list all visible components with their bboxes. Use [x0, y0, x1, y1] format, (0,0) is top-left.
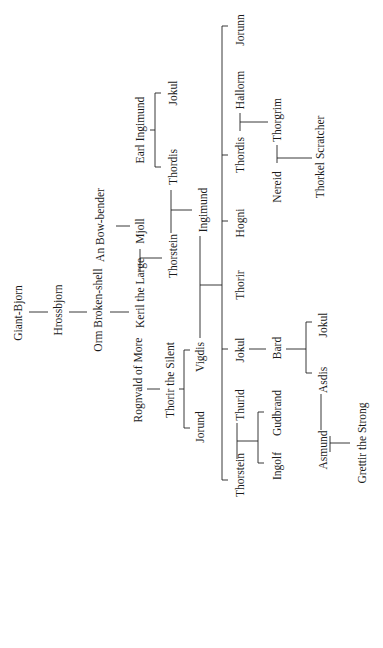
person-thorir-the-silent: Thorir the Silent: [164, 341, 176, 418]
person-vigdis: Vigdis: [194, 341, 207, 372]
person-orm-broken-shell: Orm Broken-shell: [92, 268, 104, 351]
person-jorund: Jorund: [194, 411, 206, 443]
person-jokul: Jokul: [234, 338, 246, 363]
person-gudbrand: Gudbrand: [271, 390, 283, 436]
person-earl-ingimund: Earl Ingimund: [134, 96, 147, 163]
person-asdis: Asdis: [317, 366, 329, 393]
connector-lines: [29, 26, 350, 480]
person-bard: Bard: [271, 337, 283, 360]
person-giant-bjorn: Giant-Bjorn: [12, 285, 25, 341]
person-nereid: Nereid: [271, 171, 283, 203]
person-thorgrim: Thorgrim: [271, 98, 284, 142]
person-thordis: Thordis: [234, 137, 246, 173]
person-jokul-earl: Jokul: [167, 81, 179, 106]
person-thorir: Thorir: [234, 270, 246, 300]
person-grettir-the-strong: Grettir the Strong: [356, 402, 369, 483]
person-names: Giant-BjornHrossbjornOrm Broken-shellAn …: [12, 14, 369, 497]
person-ingolf: Ingolf: [271, 452, 284, 480]
person-hallorm: Hallorm: [234, 71, 246, 109]
person-jorunn: Jorunn: [234, 14, 246, 46]
person-asmund: Asmund: [317, 430, 329, 469]
person-mjoll: Mjoll: [134, 218, 147, 244]
person-hrossbjorn: Hrossbjorn: [52, 284, 65, 335]
person-ingimund: Ingimund: [197, 187, 210, 232]
person-thordis-earl: Thordis: [167, 149, 179, 185]
person-thorkel-scratcher: Thorkel Scratcher: [314, 115, 326, 198]
genealogy-diagram: Giant-BjornHrossbjornOrm Broken-shellAn …: [0, 0, 383, 648]
person-jokul-bard: Jokul: [317, 313, 329, 338]
person-keril-the-large: Keril the Large: [134, 258, 147, 328]
person-thurid: Thurid: [234, 389, 246, 421]
person-thorstein-keril: Thorstein: [167, 234, 179, 278]
person-an-bow-bender: An Bow-bender: [94, 188, 106, 262]
person-thorstein: Thorstein: [234, 453, 246, 497]
person-hogni: Hogni: [234, 209, 247, 238]
person-rognvald-of-more: Rognvald of More: [132, 338, 145, 423]
